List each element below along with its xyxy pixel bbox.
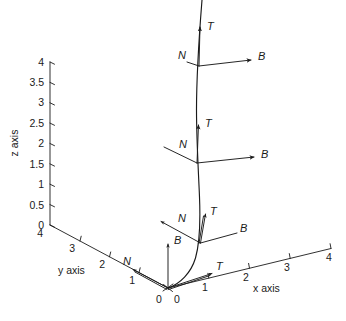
origin-T-label: T	[216, 260, 224, 272]
x-tick-label-3: 3	[284, 261, 290, 273]
z-tick-label-3: 3	[38, 96, 44, 108]
middle-B-vector	[197, 157, 254, 163]
z-tick-label-0p5: 0.5	[29, 199, 44, 211]
lower-B-label: B	[240, 222, 247, 234]
upper-T-label: T	[207, 20, 215, 32]
y-axis-origin-label: 0	[156, 293, 162, 305]
lower-B-vector	[201, 233, 238, 243]
y-axis-group: 4 3 2 1 0 y axis	[37, 225, 168, 305]
z-tick-label-1p5: 1.5	[29, 158, 44, 170]
upper-N-vector	[187, 62, 199, 66]
upper-B-label: B	[258, 50, 265, 62]
y-tick-label-1: 1	[129, 274, 135, 286]
upper-N-label: N	[178, 49, 186, 61]
middle-T-label: T	[205, 117, 213, 129]
y-axis-ticks	[80, 236, 140, 272]
z-axis-group: 4 3.5 3 2.5 2 1.5 1 0.5 0 z axis	[8, 56, 55, 231]
origin-B-label: B	[174, 234, 181, 246]
x-axis-ticks	[208, 244, 331, 278]
y-tick-label-2: 2	[99, 258, 105, 270]
frenet-frame-middle: T N B	[164, 117, 268, 163]
z-tick-label-3p5: 3.5	[29, 76, 44, 88]
z-tick-label-2p5: 2.5	[29, 117, 44, 129]
origin-N-vector-twin	[135, 272, 167, 290]
middle-N-label: N	[179, 138, 187, 150]
z-axis-ticks	[50, 62, 55, 227]
x-axis-title: x axis	[253, 282, 280, 294]
y-tick-label-3: 3	[69, 242, 75, 254]
origin-N-vector	[133, 270, 168, 289]
frenet-frame-origin: T N B	[123, 234, 224, 292]
y-tick-label-4: 4	[37, 227, 43, 239]
x-tick-label-2: 2	[243, 271, 249, 283]
z-tick-label-4: 4	[38, 56, 44, 68]
lower-N-label: N	[178, 212, 186, 224]
frenet-frame-upper: T N B	[178, 20, 265, 66]
z-tick-label-2: 2	[38, 137, 44, 149]
x-tick-label-1: 1	[202, 281, 208, 293]
figure-canvas: 4 3.5 3 2.5 2 1.5 1 0.5 0 z axis 4 3 2 1…	[0, 0, 346, 321]
y-axis-title: y axis	[58, 264, 85, 276]
z-tick-label-1: 1	[38, 178, 44, 190]
3d-curve-diagram: 4 3.5 3 2.5 2 1.5 1 0.5 0 z axis 4 3 2 1…	[0, 0, 346, 321]
z-axis-title: z axis	[8, 130, 20, 157]
origin-N-label: N	[123, 255, 131, 267]
x-axis-origin-label: 0	[174, 293, 180, 305]
x-axis-group: 1 2 3 4 0 x axis	[168, 244, 332, 305]
lower-T-label: T	[210, 205, 218, 217]
x-tick-label-4: 4	[326, 251, 332, 263]
upper-B-vector	[199, 60, 251, 66]
middle-B-label: B	[261, 148, 268, 160]
